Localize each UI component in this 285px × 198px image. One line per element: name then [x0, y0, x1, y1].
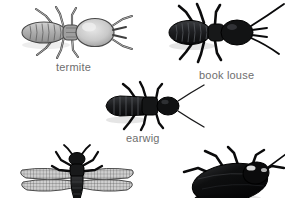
book-louse-insect-icon — [163, 2, 285, 64]
cockroach-figure — [172, 146, 285, 198]
termite-insect-icon — [16, 4, 136, 62]
earwig-label: earwig — [126, 133, 160, 144]
termite-label: termite — [56, 62, 91, 73]
earwig-insect-icon — [100, 82, 205, 130]
book-louse-figure — [163, 2, 285, 64]
earwig-figure — [100, 82, 205, 130]
lacewing-insect-icon — [14, 148, 140, 198]
lacewing-figure — [14, 148, 140, 198]
insect-illustration-plate: termite — [0, 0, 285, 198]
cockroach-insect-icon — [172, 146, 285, 198]
termite-figure — [16, 4, 136, 62]
book-louse-label: book louse — [199, 70, 254, 81]
